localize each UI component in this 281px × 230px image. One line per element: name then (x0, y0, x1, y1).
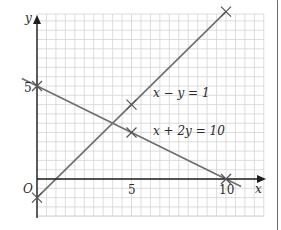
x-tick-10: 10 (219, 183, 234, 197)
origin-label: O (23, 182, 33, 196)
y-axis-arrow-icon (33, 15, 41, 24)
x-tick-5: 5 (128, 183, 136, 197)
graph-figure: y x O 5 5 10 x − y = 1 x + 2y = 10 (0, 0, 281, 230)
line-label-x-minus-y: x − y = 1 (153, 86, 210, 100)
line-label-x-plus-2y: x + 2y = 10 (153, 124, 225, 138)
y-axis-label: y (24, 11, 32, 25)
y-tick-5: 5 (24, 81, 32, 95)
x-axis-label: x (255, 182, 262, 196)
